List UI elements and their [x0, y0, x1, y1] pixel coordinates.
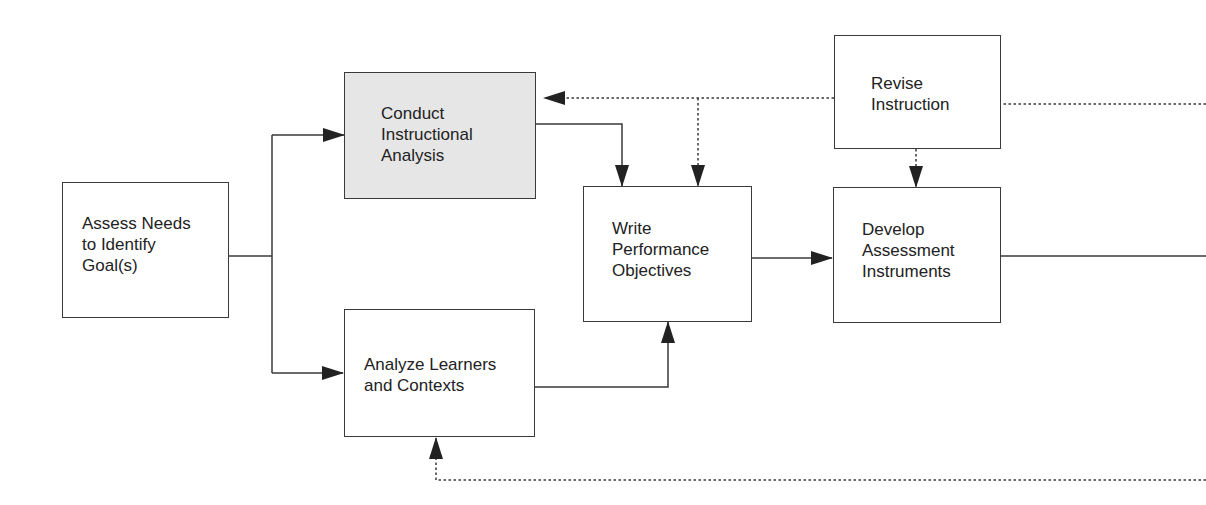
node-revise-instruction: Revise Instruction [834, 35, 1001, 149]
node-analyze-learners: Analyze Learners and Contexts [344, 309, 535, 437]
node-write-objectives: Write Performance Objectives [583, 186, 752, 322]
edge-in-analyze [436, 438, 1206, 480]
edge-analyze-write [534, 322, 668, 387]
node-conduct-instructional-analysis: Conduct Instructional Analysis [344, 72, 536, 199]
node-label: Analyze Learners and Contexts [364, 354, 496, 396]
node-develop-assessment: Develop Assessment Instruments [833, 187, 1001, 323]
node-assess-needs: Assess Needs to Identify Goal(s) [62, 182, 229, 318]
node-label: Revise Instruction [871, 73, 949, 115]
node-label: Assess Needs to Identify Goal(s) [82, 213, 191, 276]
node-label: Conduct Instructional Analysis [381, 103, 473, 166]
edge-conduct-write [536, 124, 622, 186]
node-label: Develop Assessment Instruments [862, 219, 955, 282]
node-label: Write Performance Objectives [612, 218, 709, 281]
